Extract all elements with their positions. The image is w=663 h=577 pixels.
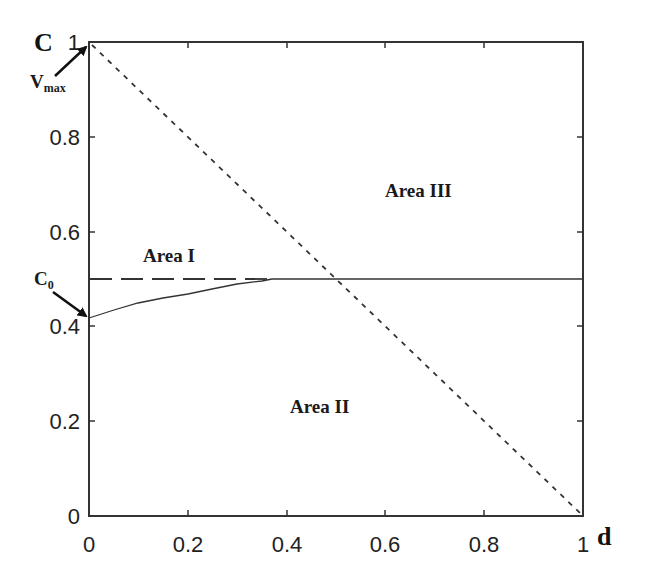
y-tick-0.2: 0.2 (49, 409, 80, 434)
vmax-label: Vmax (30, 71, 66, 95)
x-axis-label: d (597, 522, 612, 551)
boundary-curve (89, 279, 272, 318)
chart: 0 0.2 0.4 0.6 0.8 1 0 0.2 0.4 0.6 0.8 1 … (0, 0, 663, 577)
y-tick-0: 0 (68, 504, 80, 529)
area-i-label: Area I (143, 245, 195, 266)
x-tick-0.2: 0.2 (173, 532, 204, 557)
y-tick-0.6: 0.6 (49, 220, 80, 245)
x-tick-0.6: 0.6 (370, 532, 401, 557)
c0-label: C0 (34, 268, 54, 292)
y-tick-0.8: 0.8 (49, 125, 80, 150)
y-tick-1: 1 (68, 30, 80, 55)
area-iii-label: Area III (385, 180, 452, 201)
y-axis-label: C (34, 28, 53, 57)
x-tick-0.4: 0.4 (272, 532, 303, 557)
y-tick-labels: 0 0.2 0.4 0.6 0.8 1 (49, 30, 80, 529)
y-tick-0.4: 0.4 (49, 314, 80, 339)
x-tick-0.8: 0.8 (469, 532, 500, 557)
c0-arrow (53, 292, 86, 316)
area-ii-label: Area II (290, 396, 349, 417)
x-tick-0: 0 (83, 532, 95, 557)
x-tick-1: 1 (577, 532, 589, 557)
x-tick-labels: 0 0.2 0.4 0.6 0.8 1 (83, 532, 589, 557)
